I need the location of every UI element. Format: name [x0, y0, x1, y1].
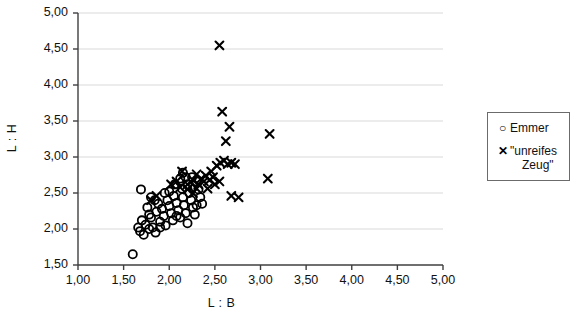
series-unreifes-zeug-markers: [147, 42, 273, 205]
chart-legend: ○ Emmer ✕ "unreifes Zeug": [487, 112, 570, 181]
legend-label-unreifes-zeug: "unreifes Zeug": [510, 144, 568, 172]
axis-lines: [78, 13, 443, 265]
axis-ticks: [73, 13, 443, 270]
chart-canvas: L : H L : B 1,502,002,503,003,504,004,50…: [0, 0, 579, 325]
legend-label-line-2: Zeug": [510, 158, 554, 172]
legend-label-line-1: "unreifes: [510, 144, 557, 158]
x-marker-icon: ✕: [495, 144, 510, 158]
circle-marker-icon: ○: [495, 121, 510, 135]
legend-label-emmer: Emmer: [510, 121, 549, 135]
legend-entry-unreifes-zeug: ✕ "unreifes Zeug": [495, 144, 568, 172]
gridlines: [78, 13, 443, 229]
legend-entry-emmer: ○ Emmer: [495, 121, 549, 135]
